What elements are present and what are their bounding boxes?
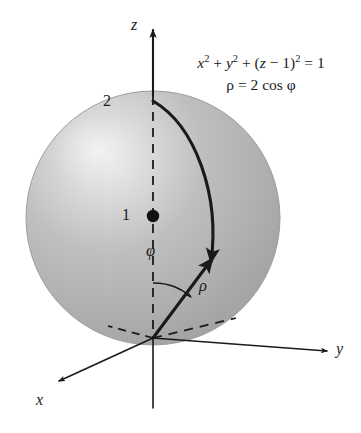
sphere-top-value-label: 2 [103, 93, 111, 109]
equation-block: x2 + y2 + (z − 1)2 = 1 ρ = 2 cos φ [168, 52, 354, 97]
y-axis-ray [153, 338, 327, 351]
spherical-equation: ρ = 2 cos φ [168, 74, 354, 96]
rho-length-label: ρ [199, 278, 207, 295]
y-axis-label: y [336, 341, 343, 357]
cartesian-equation: x2 + y2 + (z − 1)2 = 1 [168, 52, 354, 74]
z-axis-label: z [131, 17, 137, 33]
spherical-coordinates-figure: x2 + y2 + (z − 1)2 = 1 ρ = 2 cos φ z y x… [0, 0, 361, 433]
sphere-center-value-label: 1 [122, 207, 130, 223]
x-axis-label: x [36, 392, 43, 408]
x-axis-ray [59, 338, 153, 381]
sphere-center-dot [147, 210, 159, 222]
phi-angle-label: φ [146, 243, 155, 260]
